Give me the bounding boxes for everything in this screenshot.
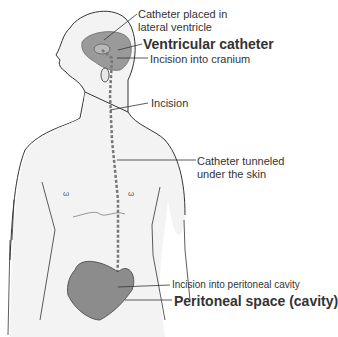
- label-tunneled-1: Catheter tunneled: [197, 155, 284, 167]
- label-catheter-placed-2: lateral ventricle: [138, 21, 212, 33]
- label-incision: Incision: [151, 97, 188, 109]
- nipple-right: ω: [128, 189, 134, 198]
- label-incision-peritoneal: Incision into peritoneal cavity: [172, 279, 300, 291]
- label-peritoneal-space: Peritoneal space (cavity): [174, 293, 338, 309]
- ear: [101, 68, 109, 82]
- lateral-ventricle: [94, 44, 110, 54]
- label-ventricular-catheter: Ventricular catheter: [143, 36, 274, 52]
- nipple-left: ω: [63, 189, 69, 198]
- label-catheter-placed-1: Catheter placed in: [138, 8, 227, 20]
- label-tunneled-2: under the skin: [197, 168, 266, 180]
- label-incision-cranium: Incision into cranium: [150, 53, 250, 65]
